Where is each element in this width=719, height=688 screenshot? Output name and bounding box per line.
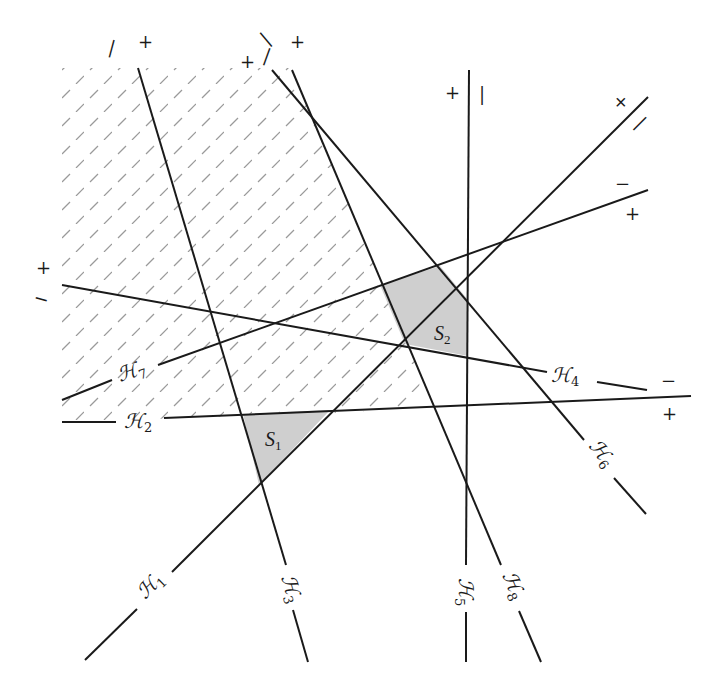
svg-text:+: +	[609, 89, 635, 115]
svg-text:+: +	[445, 82, 460, 103]
svg-text:ℋ6: ℋ6	[582, 434, 620, 472]
svg-text:|: |	[106, 36, 118, 59]
hyperplane-diagram: ℋ3 | + ℋ6 + | ℋ8 | + ℋ5 + | ℋ1 + | ℋ7	[0, 0, 719, 688]
svg-text:+: +	[662, 403, 677, 424]
svg-text:+: +	[240, 51, 255, 72]
svg-text:+: +	[36, 257, 51, 278]
svg-text:ℋ1: ℋ1	[132, 567, 170, 605]
svg-text:ℋ3: ℋ3	[274, 572, 307, 606]
svg-text:ℋ8: ℋ8	[496, 568, 531, 604]
hyperplane-h5: ℋ5 + |	[445, 70, 485, 662]
svg-text:|: |	[260, 44, 273, 67]
svg-text:−: −	[615, 173, 630, 194]
svg-text:ℋ5: ℋ5	[452, 578, 478, 606]
svg-text:+: +	[625, 203, 640, 224]
svg-text:−: −	[32, 286, 52, 310]
region-s1	[243, 410, 330, 485]
svg-text:|: |	[479, 83, 485, 105]
svg-text:+: +	[138, 31, 153, 52]
svg-text:+: +	[290, 31, 305, 52]
svg-text:|: |	[631, 113, 651, 133]
hatched-region	[55, 60, 435, 425]
svg-text:−: −	[661, 370, 676, 391]
svg-text:ℋ4: ℋ4	[551, 363, 579, 389]
